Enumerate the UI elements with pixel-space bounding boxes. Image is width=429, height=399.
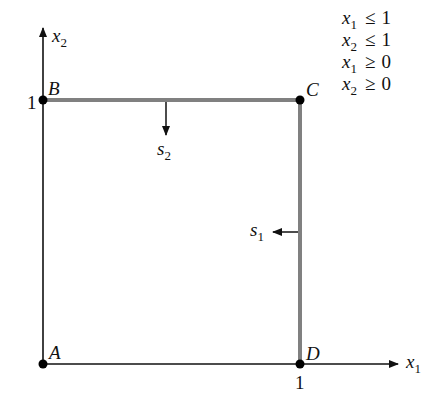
s2-label: s2 (157, 139, 171, 158)
vertex-a-dot (39, 360, 48, 369)
x2-axis-label: x2 (52, 26, 67, 45)
vertex-c-dot (296, 96, 305, 105)
constraint-row: x1≤1 (342, 8, 391, 30)
vertex-d-label: D (306, 344, 320, 363)
x1-axis-label: x1 (406, 352, 421, 371)
constraint-row: x2≤1 (342, 30, 391, 52)
s1-label: s1 (250, 220, 264, 239)
vertex-b-dot (39, 96, 48, 105)
x2-tick-label: 1 (27, 93, 37, 112)
vertex-b-label: B (48, 79, 60, 98)
vertex-d-dot (296, 360, 305, 369)
vertex-a-label: A (49, 343, 61, 362)
x1-tick-label: 1 (295, 373, 305, 392)
constraints-list: x1≤1 x2≤1 x1≥0 x2≥0 (342, 8, 391, 96)
constraint-row: x2≥0 (342, 74, 391, 96)
vertex-c-label: C (306, 80, 319, 99)
constraint-row: x1≥0 (342, 52, 391, 74)
